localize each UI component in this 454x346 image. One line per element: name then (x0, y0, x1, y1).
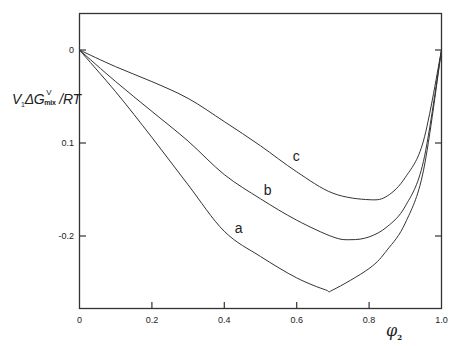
x-tick-label: 0.6 (282, 315, 312, 325)
axis-ticks (80, 50, 442, 309)
x-tick-label: 0.8 (354, 315, 384, 325)
curve-label-a: a (235, 221, 243, 235)
x-tick-label: 1.0 (427, 315, 454, 325)
y-tick-label: 0 (44, 45, 74, 55)
curve-b (80, 50, 442, 240)
curve-c (80, 50, 442, 200)
curves (80, 50, 442, 292)
plot-frame (80, 14, 442, 309)
x-axis-label: φ2 (386, 321, 402, 342)
x-tick-label: 0.4 (209, 315, 239, 325)
curve-label-b: b (264, 183, 272, 197)
y-tick-label: 0.1 (44, 138, 74, 148)
y-tick-label: -0.2 (44, 231, 74, 241)
y-axis-label: V1ΔGVmix/RT (12, 91, 81, 108)
x-tick-label: 0.2 (137, 315, 167, 325)
x-tick-label: 0 (65, 315, 95, 325)
curve-a (80, 50, 442, 292)
curve-label-c: c (293, 149, 300, 163)
